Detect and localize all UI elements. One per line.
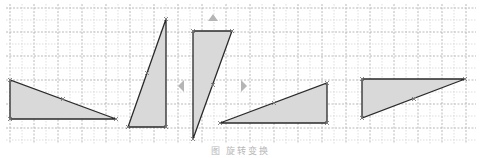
arrow-up-icon (208, 14, 218, 21)
triangle-4 (218, 81, 329, 125)
grid-diagram (0, 0, 481, 158)
figure-caption: 图 旋转变换 (0, 144, 481, 157)
triangle-2 (126, 17, 168, 129)
triangles (8, 17, 467, 141)
triangle-3 (191, 29, 234, 141)
arrow-left-icon (178, 80, 184, 92)
triangle-1 (8, 78, 118, 121)
triangle-5 (360, 77, 467, 120)
arrow-right-icon (241, 80, 247, 92)
